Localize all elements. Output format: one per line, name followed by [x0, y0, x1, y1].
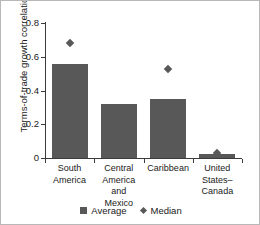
y-tick-label: 0.6	[15, 52, 39, 62]
bar-average	[52, 64, 88, 159]
x-axis-category-line: South	[45, 163, 94, 175]
x-axis-category-line: Caribbean	[144, 163, 193, 175]
chart-figure: Terms-of-trade growth correlation 00.20.…	[0, 0, 260, 225]
legend-label: Median	[151, 205, 182, 216]
y-tick-label: 0.8	[15, 18, 39, 28]
x-axis-category-line: Canada	[193, 186, 242, 198]
x-axis-category-label: CentralAmerica andMexico	[94, 163, 143, 209]
y-tick-label: 0	[15, 153, 39, 163]
x-axis-category-line: Central	[94, 163, 143, 175]
legend-diamond-icon	[139, 207, 146, 214]
y-tick-label: 0.4	[15, 86, 39, 96]
chart-legend: AverageMedian	[1, 205, 260, 216]
x-axis-category-label: Caribbean	[144, 163, 193, 175]
legend-label: Average	[91, 205, 126, 216]
bar-average	[101, 104, 137, 158]
x-tick	[242, 159, 243, 163]
legend-item: Median	[140, 205, 182, 216]
x-axis-labels: SouthAmericaCentralAmerica andMexicoCari…	[45, 163, 242, 207]
bar-average	[150, 99, 186, 158]
x-axis-category-line: States–	[193, 175, 242, 187]
legend-square-icon	[80, 207, 87, 214]
legend-item: Average	[80, 205, 126, 216]
x-axis-category-line: America	[45, 175, 94, 187]
y-tick-label: 0.2	[15, 119, 39, 129]
x-axis-category-label: UnitedStates–Canada	[193, 163, 242, 198]
x-axis-category-line: America and	[94, 175, 143, 198]
x-axis-category-line: United	[193, 163, 242, 175]
x-axis-category-label: SouthAmerica	[45, 163, 94, 186]
